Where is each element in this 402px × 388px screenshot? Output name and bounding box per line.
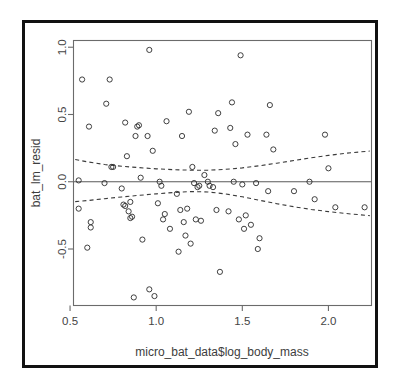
lower-confidence-band-line [75,192,370,216]
scatter-point [123,120,128,125]
scatter-point [217,269,222,274]
scatter-point [147,47,152,52]
scatter-point [214,207,219,212]
scatter-point [147,287,152,292]
scatter-point [255,246,260,251]
x-axis-tick-label: 2.0 [320,315,336,327]
scatter-point [212,128,217,133]
scatter-point [152,293,157,298]
y-axis-label: bat_lm_resid [29,139,43,208]
scatter-point [124,154,129,159]
scatter-point [264,132,269,137]
scatter-point [126,209,131,214]
scatter-point [119,186,124,191]
scatter-point [188,241,193,246]
scatter-point [226,209,231,214]
y-axis-tick-label: 0.5 [57,106,69,122]
scatter-point [193,217,198,222]
scatter-point [248,222,253,227]
scatter-point [229,100,234,105]
scatter-point [243,213,248,218]
scatter-point [183,233,188,238]
scatter-point [88,225,93,230]
scatter-point [140,237,145,242]
scatter-point [88,220,93,225]
scatter-point [362,205,367,210]
scatter-point [240,182,245,187]
scatter-point [167,226,172,231]
scatter-point [131,295,136,300]
scatter-point [86,124,91,129]
scatter-point [185,206,190,211]
scatter-point [271,147,276,152]
scatter-point [85,245,90,250]
scatter-point [198,218,203,223]
scatter-point [326,166,331,171]
scatter-point [190,164,195,169]
scatter-point [312,197,317,202]
scatter-point [155,201,160,206]
scatter-point [267,102,272,107]
figure-root: 0.51.01.52.0 -0.50.00.51.0 micro_bat_dat… [0,0,402,388]
x-axis-label: micro_bat_data$log_body_mass [135,345,308,359]
scatter-point [333,205,338,210]
scatter-points-group [76,47,367,300]
scatter-point [178,207,183,212]
x-axis-tick-label: 0.5 [62,315,78,327]
scatter-point [245,132,250,137]
scatter-point [128,199,133,204]
x-axis-tick-label: 1.5 [234,315,250,327]
scatter-point [145,133,150,138]
scatter-point [164,119,169,124]
scatter-point [133,133,138,138]
scatter-point [104,101,109,106]
x-axis-ticks-group: 0.51.01.52.0 [62,306,336,327]
scatter-point [241,226,246,231]
scatter-point [238,53,243,58]
scatter-point [291,189,296,194]
scatter-point [160,217,165,222]
scatter-point [257,236,262,241]
scatter-point [216,111,221,116]
scatter-point [322,132,327,137]
scatter-point [150,148,155,153]
scatter-point [266,189,271,194]
scatter-point [107,77,112,82]
scatter-point [210,185,215,190]
x-axis-tick-label: 1.0 [148,315,164,327]
scatter-point [162,211,167,216]
y-axis-tick-label: -0.5 [57,239,69,259]
scatter-point [138,175,143,180]
scatter-point [202,172,207,177]
scatter-point [181,220,186,225]
scatter-point [76,206,81,211]
y-axis-tick-label: 0.0 [57,174,69,190]
scatter-point [176,249,181,254]
y-axis-ticks-group: -0.50.00.51.0 [57,39,74,259]
scatter-point [233,141,238,146]
scatter-point [228,125,233,130]
plot-panel-frame [74,41,372,306]
scatter-point [179,133,184,138]
scatter-plot-canvas: 0.51.01.52.0 -0.50.00.51.0 micro_bat_dat… [0,0,402,388]
scatter-point [236,217,241,222]
scatter-point [186,109,191,114]
scatter-point [80,77,85,82]
y-axis-tick-label: 1.0 [57,39,69,55]
